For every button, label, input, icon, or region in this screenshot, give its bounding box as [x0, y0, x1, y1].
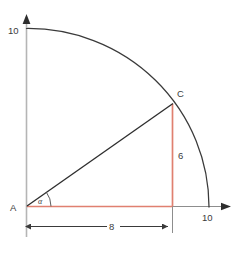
y-axis-arrowhead — [23, 14, 31, 24]
vertical-leg-label: 6 — [178, 150, 183, 161]
angle-alpha-group — [46, 192, 51, 206]
geometry-diagram: 10 10 A C 6 8 α — [0, 0, 237, 253]
angle-alpha-arc — [46, 192, 51, 206]
geometry-canvas: 10 10 A C 6 8 α — [0, 0, 237, 253]
y-axis-max-label: 10 — [8, 25, 19, 36]
axes-group — [23, 14, 231, 237]
point-a-label: A — [10, 202, 17, 213]
angle-alpha-label: α — [38, 197, 43, 206]
dimension-8-group — [31, 207, 173, 234]
point-c-label: C — [177, 88, 184, 99]
horizontal-leg-label: 8 — [109, 221, 114, 232]
x-axis-arrowhead — [221, 203, 231, 210]
x-axis-max-label: 10 — [202, 212, 213, 223]
quarter-circle-arc-group — [27, 28, 210, 207]
quarter-circle-arc — [27, 28, 210, 207]
hypotenuse-group — [27, 104, 173, 207]
hypotenuse-segment — [27, 104, 173, 207]
